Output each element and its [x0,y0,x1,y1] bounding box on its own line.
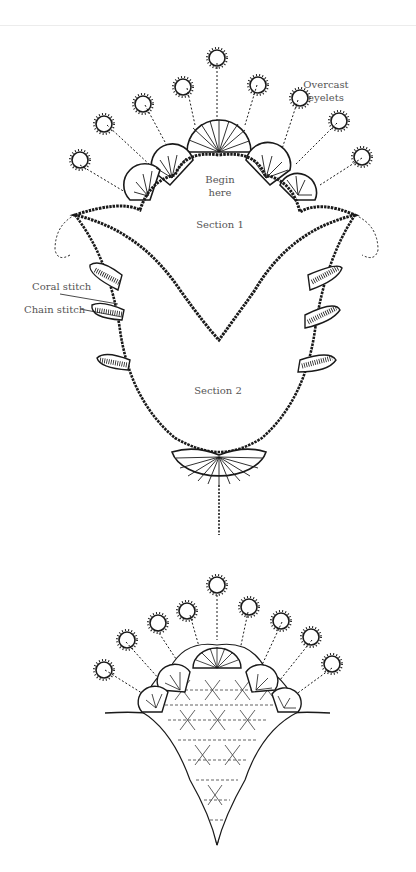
eyelet-icon [322,654,342,674]
right-tendril [355,215,378,258]
eyelet-icon [70,150,90,170]
eyelet-icon [248,75,268,95]
section-1-label: Section 1 [190,218,250,231]
leaf-fill [95,268,338,366]
eyelet-icon [148,613,168,633]
left-tendril [55,215,75,258]
eyelet-icon [207,575,227,595]
figure-1-tulip-motif [55,48,378,535]
eyelet-icon [177,601,197,621]
eyelet-icon [239,597,259,617]
overcast-eyelets-label: Overcast eyelets [297,78,355,104]
label-line: eyelets [297,91,355,104]
eyelet-icon [352,147,372,167]
label-line: Begin [200,173,240,186]
figure-2-filled-motif [94,575,342,845]
label-line: here [200,186,240,199]
eyelet-icon [94,114,114,134]
eyelet-icon [94,660,114,680]
eyelet-icon [117,630,137,650]
section-2-outline [75,215,355,452]
eyelet-icon [271,611,291,631]
eyelet-icon [133,94,153,114]
chain-stitch-label: Chain stitch [24,303,94,316]
eyelet-icon [329,111,349,131]
embroidery-diagram [0,0,416,872]
coral-stitch-label: Coral stitch [32,280,102,293]
label-line: Overcast [297,78,355,91]
section-2-label: Section 2 [188,384,248,397]
eyelet-icon [301,627,321,647]
satin-leaves [90,263,342,372]
begin-here-label: Begin here [200,173,240,199]
eyelet-icon [173,77,193,97]
